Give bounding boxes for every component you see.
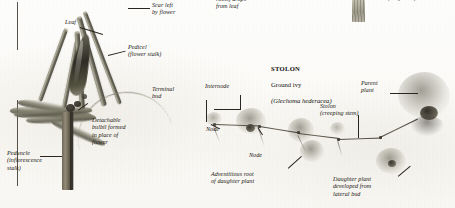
node-dot-3	[297, 131, 300, 134]
leader-stolon-stem	[358, 115, 359, 138]
specimen-thumbnail	[352, 0, 365, 22]
label-parent-plant: Parent plant	[361, 80, 378, 95]
spear-leaf-highlight	[72, 40, 84, 86]
parent-plant-roots	[410, 116, 444, 136]
label-detachable-bulbil: Detachable bulbil formed in place of flo…	[92, 117, 126, 146]
basal-leaf-left-1	[16, 96, 93, 121]
stolon-title: STOLON	[271, 65, 300, 72]
label-peduncle: Peduncle (inflorescence stalk)	[7, 150, 42, 172]
daughter-plant-crown	[246, 124, 255, 132]
bulbil-cluster-a	[66, 104, 75, 112]
leader-adventitious-root	[288, 156, 302, 168]
label-pedicel: Pedicel (flower stalk)	[128, 44, 161, 59]
peduncle-shadow	[70, 112, 74, 190]
stolon-segment-1	[214, 124, 260, 127]
leader-daughter-plant	[398, 166, 411, 177]
leader-leaf	[80, 27, 103, 35]
basal-leaf-right-2	[26, 112, 96, 126]
margin-rule-top	[17, 2, 18, 50]
label-roots-drops-from-leaf: roots) drops from leaf	[216, 0, 246, 11]
stolon-heading: STOLON Ground ivy (Glechoma hederacea)	[271, 57, 332, 105]
spear-leaf	[67, 33, 93, 97]
label-daughter-plant: Daughter plant developed from lateral bu…	[333, 176, 371, 198]
stolon-segment-5	[380, 119, 418, 138]
leader-pedicel	[108, 51, 126, 56]
label-node-upper: Node	[206, 126, 219, 133]
stalk-left-inner	[62, 41, 79, 109]
lateral-daughter-foliage	[376, 148, 406, 174]
peduncle-stalk	[62, 112, 73, 190]
mid-node-foliage	[288, 118, 314, 142]
parent-plant-crown	[420, 106, 438, 120]
stolon-segment-4	[338, 137, 382, 140]
daughter-plant-foliage	[236, 108, 266, 134]
leader-peduncle	[40, 156, 62, 157]
leader-internode	[240, 95, 241, 109]
lateral-daughter-crown	[388, 160, 396, 167]
stalk-right-outer	[83, 12, 122, 105]
node-dot-5	[379, 136, 382, 139]
label-stolon-creeping-stem: Stolon (creeping stem)	[320, 103, 359, 118]
leader-node-lower	[258, 127, 263, 135]
label-node-lower: Node	[249, 152, 262, 159]
stem-leaf-2	[330, 122, 345, 135]
stolon-common-name: Ground ivy	[271, 81, 301, 88]
label-terminal-bud: Terminal bud	[152, 86, 174, 101]
label-leaf: Leaf	[65, 19, 76, 26]
label-twig-stalk: (twig stalk)	[388, 0, 416, 2]
bulbil-detached	[82, 94, 87, 99]
stolon-segment-3	[298, 133, 340, 139]
leader-parent-plant	[390, 93, 418, 94]
parent-plant-foliage	[398, 72, 450, 118]
bulbil-cluster-b	[74, 101, 81, 107]
stalk-center	[75, 32, 85, 110]
adventitious-root-4	[338, 141, 343, 157]
leader-internode-h	[214, 109, 241, 110]
label-internode: Internode	[205, 83, 229, 90]
leader-terminal-bud	[206, 100, 207, 122]
label-adventitious-root: Adventitious root of daughter plant	[211, 171, 254, 186]
mid-node-foliage-2	[300, 140, 324, 162]
label-scar-left-by-flower: Scar left by flower	[152, 2, 175, 17]
stolon-segment-2	[259, 126, 299, 133]
adventitious-root-3	[298, 135, 307, 153]
stem-leaf-1	[206, 112, 222, 126]
stalk-left-outer	[38, 29, 68, 102]
leader-bulbil	[78, 103, 88, 111]
margin-rule-bottom	[17, 100, 18, 186]
leader-scar	[128, 8, 150, 9]
node-dot-4	[337, 138, 340, 141]
encyclopedia-page: Leaf Scar left by flower Pedicel (flower…	[0, 0, 455, 208]
